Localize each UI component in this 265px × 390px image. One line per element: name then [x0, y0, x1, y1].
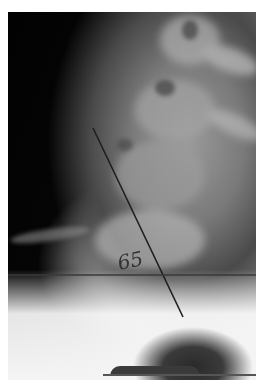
oblique-measurement-line [93, 128, 183, 317]
angle-label: 65 [115, 246, 145, 275]
angle-annotation: 65 [0, 0, 265, 390]
